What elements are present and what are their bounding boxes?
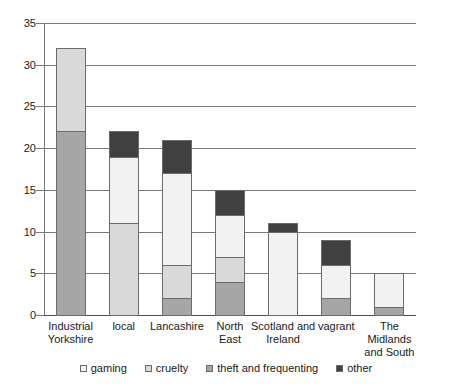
x-category-label-line: Yorkshire [38,333,103,346]
bar-segment[interactable] [268,223,298,232]
y-tick-mark-0 [36,315,44,316]
legend-item[interactable]: theft and frequenting [206,362,318,374]
bar-segment[interactable] [56,48,86,132]
stacked-bar-chart: 05101520253035 IndustrialYorkshirelocalL… [0,0,452,390]
y-tick-mark-25 [36,106,44,107]
bar-segment[interactable] [374,307,404,316]
legend-swatch-icon [145,365,152,372]
bar-slot [257,24,310,316]
legend-item[interactable]: other [336,362,372,374]
bars [44,24,416,316]
bar-slot [150,24,203,316]
chart-legend: gamingcrueltytheft and frequentingother [0,362,452,374]
bar-segment[interactable] [56,131,86,316]
y-axis-tick-marks [0,24,44,316]
legend-swatch-icon [80,365,87,372]
bar-segment[interactable] [162,265,192,299]
bar-segment[interactable] [321,240,351,266]
bar-slot [203,24,256,316]
legend-swatch-icon [336,365,343,372]
bar-segment[interactable] [215,257,245,283]
y-tick-mark-20 [36,148,44,149]
y-tick-mark-35 [36,23,44,24]
bar-segment[interactable] [162,140,192,174]
bar-segment[interactable] [215,215,245,258]
bar-segment[interactable] [321,298,351,316]
legend-label: theft and frequenting [217,362,318,374]
bar-slot [44,24,97,316]
bar-slot [363,24,416,316]
x-category-label: The Midlandsand South [357,320,422,359]
bar-segment[interactable] [162,298,192,316]
bar-segment[interactable] [374,273,404,307]
bar-segment[interactable] [268,232,298,316]
legend-label: gaming [91,362,127,374]
bar-segment[interactable] [109,131,139,157]
bar-slot [310,24,363,316]
bar-slot [97,24,150,316]
bar-segment[interactable] [109,223,139,316]
plot-area [44,24,416,316]
legend-label: cruelty [156,362,188,374]
bar-segment[interactable] [215,282,245,316]
legend-item[interactable]: cruelty [145,362,188,374]
legend-swatch-icon [206,365,213,372]
y-tick-mark-5 [36,273,44,274]
bar-segment[interactable] [215,190,245,216]
y-tick-mark-30 [36,65,44,66]
x-axis-category-labels: IndustrialYorkshirelocalLancashireNorthE… [44,320,416,360]
bar-segment[interactable] [162,173,192,266]
bar-segment[interactable] [109,157,139,225]
bar-segment[interactable] [321,265,351,299]
x-category-label-line: Ireland [251,333,316,346]
y-tick-mark-10 [36,232,44,233]
y-tick-mark-15 [36,190,44,191]
x-category-label-line: The Midlands [357,320,422,346]
legend-item[interactable]: gaming [80,362,127,374]
legend-label: other [347,362,372,374]
x-category-label-line: and South [357,346,422,359]
